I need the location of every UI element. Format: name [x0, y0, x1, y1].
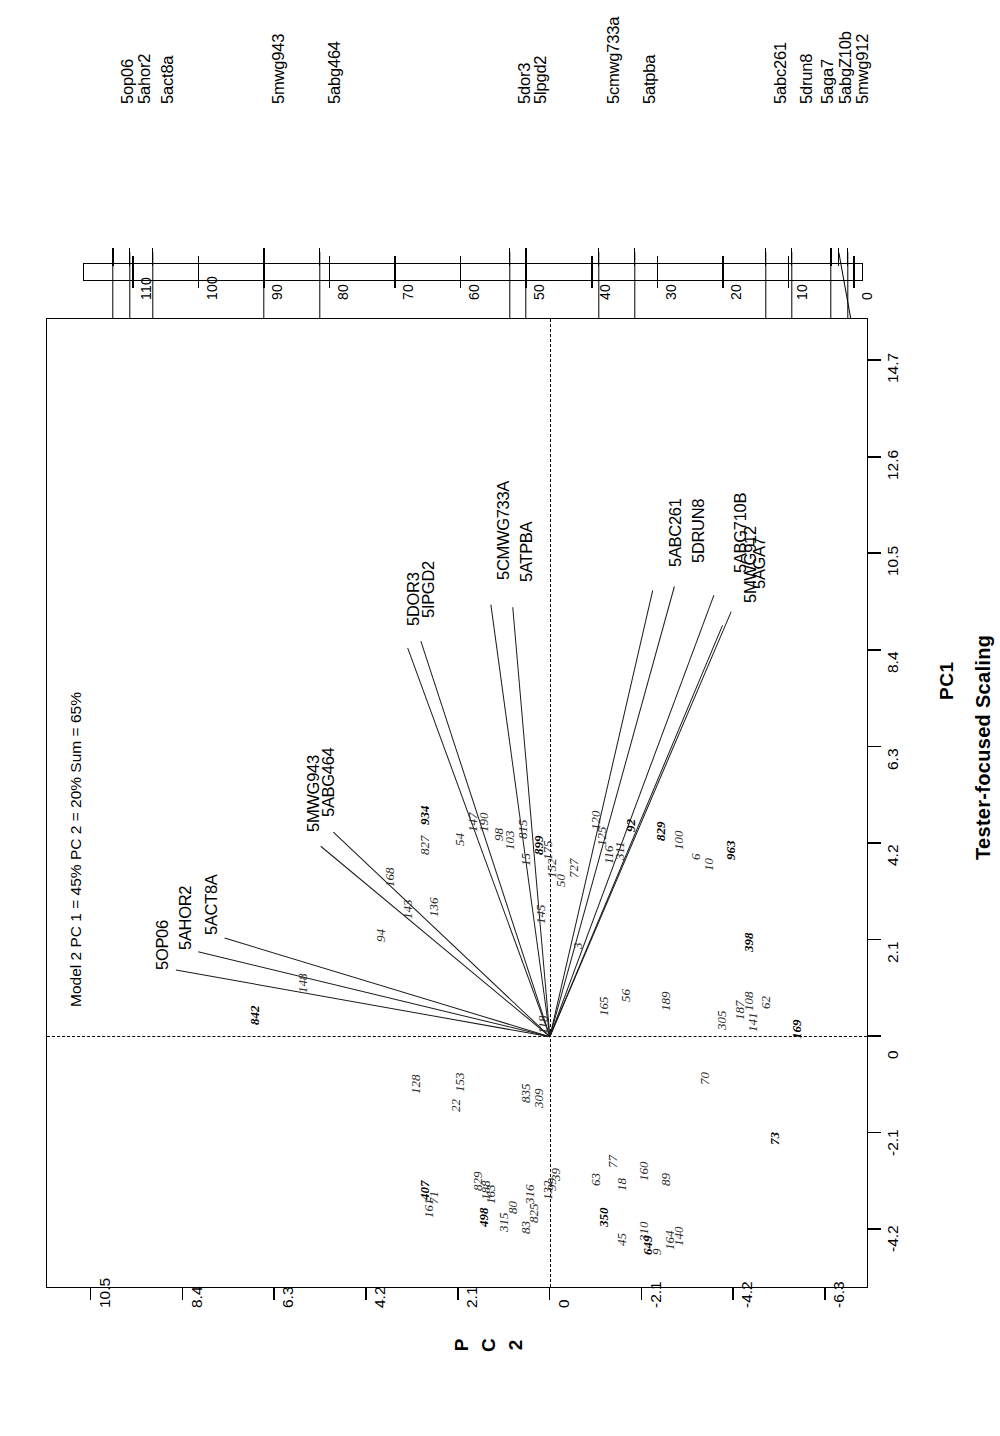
linkage-marker-label: 5atpba — [640, 55, 659, 104]
biplot-panel: 5OP065AHOR25ACT8A5MWG9435ABG4645DOR35IPG… — [46, 318, 868, 1288]
pc2-tick-label: 10.5 — [96, 1278, 114, 1308]
biplot-vector-label: 5OP06 — [153, 920, 172, 970]
pc2-title-char: 2 — [505, 1338, 527, 1352]
linkage-scale-label: 30 — [663, 284, 679, 300]
pc2-tick — [273, 1288, 275, 1300]
biplot-genotype-label: 309 — [531, 1088, 547, 1108]
linkage-marker-label: 5mwg912 — [853, 34, 872, 104]
biplot-genotype-label: 160 — [636, 1162, 652, 1182]
biplot-genotype-label: 54 — [452, 833, 468, 846]
biplot-genotype-label: 153 — [452, 1072, 468, 1092]
linkage-marker-label: 5drun8 — [797, 54, 816, 104]
biplot-vector-label: 5AHOR2 — [176, 886, 195, 950]
biplot-vertical-origin-line — [550, 319, 551, 1287]
biplot-genotype-label: 136 — [426, 898, 442, 918]
pc1-tick — [868, 1132, 881, 1134]
biplot-genotype-label: 100 — [671, 831, 687, 851]
linkage-scale-tick — [460, 256, 462, 288]
biplot-genotype-label: 89 — [658, 1173, 674, 1186]
pc2-tick-label: 2.1 — [463, 1286, 481, 1308]
biplot-genotype-label: 498 — [476, 1208, 492, 1228]
linkage-scale-label: 80 — [335, 284, 351, 300]
biplot-genotype-label: 829 — [653, 822, 669, 842]
biplot-vector-label: 5ABG710B — [731, 493, 750, 573]
biplot-genotype-label: 315 — [496, 1212, 512, 1232]
pc2-tick-label: 0 — [555, 1299, 573, 1308]
biplot-genotype-label: 18 — [614, 1178, 630, 1191]
linkage-scale-tick — [591, 256, 593, 288]
linkage-scale-label: 40 — [597, 284, 613, 300]
biplot-genotype-label: 108 — [741, 992, 757, 1012]
biplot-marker-vector — [549, 595, 714, 1037]
pc1-tick — [868, 1228, 881, 1230]
pc2-tick-label: -2.1 — [647, 1281, 665, 1308]
linkage-marker-label: 5act8a — [158, 56, 177, 104]
biplot-genotype-label: 148 — [295, 973, 311, 993]
linkage-scale-tick — [394, 256, 396, 288]
pc1-tick — [868, 1035, 881, 1037]
linkage-scale-tick — [853, 256, 855, 288]
pc1-tick — [868, 359, 881, 361]
pc1-tick-label: 0 — [884, 1051, 902, 1060]
pc2-tick — [549, 1288, 551, 1300]
biplot-genotype-label: 70 — [697, 1072, 713, 1085]
pc1-tick-label: -4.2 — [884, 1226, 902, 1253]
pc2-axis-title: PC2 — [451, 1352, 532, 1374]
linkage-scale-label: 70 — [400, 284, 416, 300]
pc1-tick — [868, 552, 881, 554]
pc2-tick — [732, 1288, 734, 1300]
pc2-tick-label: -4.2 — [738, 1281, 756, 1308]
pc1-tick-label: 12.6 — [884, 450, 902, 480]
pc1-tick-label: -2.1 — [884, 1129, 902, 1156]
biplot-genotype-label: 56 — [618, 989, 634, 1002]
linkage-scale-label: 0 — [859, 292, 875, 300]
pc1-tick — [868, 746, 881, 748]
pc1-tick-label: 14.7 — [884, 353, 902, 383]
biplot-genotype-label: 350 — [596, 1208, 612, 1228]
biplot-vector-label: 5AGA7 — [750, 538, 769, 590]
biplot-genotype-label: 77 — [605, 1155, 621, 1168]
biplot-genotype-label: 169 — [789, 1019, 805, 1039]
linkage-marker-label: 5abg464 — [325, 41, 344, 104]
pc1-tick — [868, 649, 881, 651]
pc2-tick-label: -6.3 — [830, 1281, 848, 1308]
biplot-genotype-label: 10 — [701, 858, 717, 871]
biplot-genotype-label: 62 — [758, 996, 774, 1009]
pc2-tick-label: 4.2 — [371, 1286, 389, 1308]
biplot-genotype-label: 649 — [640, 1235, 656, 1255]
pc1-tick-label: 10.5 — [884, 546, 902, 576]
linkage-marker-label: 5abc261 — [771, 42, 790, 104]
biplot-genotype-label: 825 — [526, 1203, 542, 1223]
linkage-scale-label: 50 — [531, 284, 547, 300]
biplot-genotype-label: 125 — [594, 826, 610, 846]
biplot-vector-label: 5ACT8A — [202, 874, 221, 935]
biplot-genotype-label: 190 — [476, 812, 492, 832]
biplot-genotype-label: 398 — [741, 932, 757, 952]
linkage-scale-label: 90 — [269, 284, 285, 300]
pc1-tick-label: 2.1 — [884, 941, 902, 963]
pc2-tick — [365, 1288, 367, 1300]
biplot-genotype-label: 80 — [505, 1201, 521, 1214]
biplot-genotype-label: 189 — [658, 992, 674, 1012]
biplot-genotype-label: 175 — [540, 840, 556, 860]
linkage-marker-label: 5ahor2 — [135, 54, 154, 104]
linkage-scale-tick — [657, 256, 659, 288]
pc1-tick — [868, 842, 881, 844]
pc1-tick-label: 6.3 — [884, 748, 902, 770]
biplot-genotype-label: 63 — [588, 1173, 604, 1186]
model-caption: Model 2 PC 1 = 45% PC 2 = 20% Sum = 65% — [67, 692, 85, 1007]
pc2-tick — [90, 1288, 92, 1300]
biplot-genotype-label: 305 — [714, 1010, 730, 1030]
linkage-scale-tick — [722, 256, 724, 288]
pc2-tick — [824, 1288, 826, 1300]
pc2-title-char: C — [478, 1338, 500, 1352]
biplot-genotype-label: 165 — [596, 996, 612, 1016]
biplot-genotype-label: 22 — [448, 1099, 464, 1112]
biplot-genotype-label: 963 — [723, 840, 739, 860]
biplot-genotype-label: 128 — [408, 1075, 424, 1095]
biplot-genotype-label: 118 — [535, 1016, 551, 1035]
linkage-marker-label: 5lpgd2 — [531, 56, 550, 104]
pc1-tick-label: 8.4 — [884, 651, 902, 673]
biplot-genotype-label: 316 — [522, 1185, 538, 1205]
biplot-marker-vector — [549, 611, 732, 1037]
